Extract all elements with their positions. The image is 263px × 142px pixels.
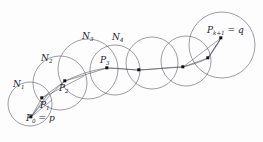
- label-N2: N2: [41, 54, 52, 64]
- label-P0-equals: = p: [36, 113, 55, 123]
- point-P1: [40, 96, 43, 99]
- label-Pk1-equals-q: Pk+1 = q: [207, 26, 244, 36]
- radius-Nk-b: [183, 38, 221, 67]
- label-N3: N3: [82, 32, 93, 42]
- label-N3-sub: 3: [90, 36, 94, 42]
- label-N4-base: N: [112, 32, 120, 42]
- label-P1-sub: 1: [46, 105, 50, 111]
- point-P2: [63, 79, 66, 82]
- label-N2-base: N: [41, 53, 49, 63]
- path-nodes: [29, 36, 222, 118]
- label-P3: P3: [100, 56, 110, 66]
- figure-container: N1 N2 N3 N4 P1 P2 P3 P0 = p Pk+1 = q: [0, 0, 263, 142]
- label-P3-sub: 3: [106, 60, 110, 66]
- label-P2-sub: 2: [65, 88, 69, 94]
- point-Pk1: [219, 36, 222, 39]
- label-N1-base: N: [13, 79, 21, 89]
- label-Pk1-equals: = q: [225, 25, 244, 35]
- point-P5: [181, 65, 184, 68]
- point-P4: [137, 68, 140, 71]
- label-P1: P1: [40, 101, 50, 111]
- label-N4-sub: 4: [120, 37, 124, 43]
- label-P2: P2: [59, 84, 69, 94]
- label-N4: N4: [112, 33, 123, 43]
- label-P0-equals-p: P0 = p: [26, 114, 55, 124]
- circle-N6: [161, 36, 211, 86]
- circle-N7: [189, 12, 255, 78]
- label-N1: N1: [13, 80, 24, 90]
- label-N2-sub: 2: [49, 58, 53, 64]
- point-P3: [105, 66, 108, 69]
- label-N3-base: N: [82, 31, 90, 41]
- point-P6: [206, 56, 209, 59]
- label-Pk1-sub: k+1: [213, 30, 225, 36]
- circle-N5: [126, 37, 178, 89]
- label-N1-sub: 1: [21, 84, 25, 90]
